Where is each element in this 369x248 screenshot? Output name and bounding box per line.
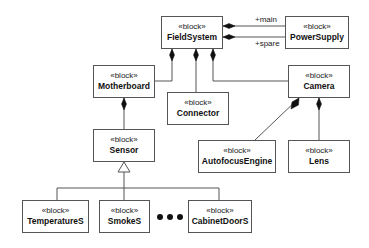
- block-autofocusengine[interactable]: «block»AutofocusEngine: [198, 140, 276, 173]
- block-name: CabinetDoorS: [192, 216, 249, 227]
- block-stereotype: «block»: [305, 71, 333, 81]
- block-name: TemperatureS: [27, 216, 84, 227]
- block-stereotype: «block»: [111, 206, 139, 216]
- block-stereotype: «block»: [305, 146, 333, 156]
- block-powersupply[interactable]: «block»PowerSupply: [285, 16, 349, 49]
- block-name: FieldSystem: [167, 32, 217, 43]
- role-main: +main: [255, 15, 277, 24]
- block-lens[interactable]: «block»Lens: [288, 140, 350, 173]
- block-cabinetdoors[interactable]: «block»CabinetDoorS: [188, 200, 252, 233]
- block-stereotype: «block»: [303, 22, 331, 32]
- block-name: AutofocusEngine: [202, 156, 272, 167]
- block-stereotype: «block»: [206, 206, 234, 216]
- block-camera[interactable]: «block»Camera: [288, 65, 350, 98]
- block-fieldsystem[interactable]: «block»FieldSystem: [161, 16, 223, 49]
- block-name: PowerSupply: [290, 32, 344, 43]
- block-temperatures[interactable]: «block»TemperatureS: [22, 200, 89, 233]
- block-stereotype: «block»: [110, 71, 138, 81]
- role-spare: +spare: [255, 39, 280, 48]
- block-stereotype: «block»: [42, 206, 70, 216]
- block-connector[interactable]: «block»Connector: [167, 92, 229, 125]
- block-stereotype: «block»: [178, 22, 206, 32]
- block-name: SmokeS: [108, 216, 142, 227]
- block-name: Camera: [303, 81, 334, 92]
- block-name: Lens: [309, 156, 329, 167]
- block-name: Connector: [177, 108, 220, 119]
- block-name: Sensor: [110, 145, 139, 156]
- block-motherboard[interactable]: «block»Motherboard: [93, 65, 155, 98]
- block-stereotype: «block»: [223, 146, 251, 156]
- ellipsis-dots: [157, 214, 183, 220]
- block-smokes[interactable]: «block»SmokeS: [99, 200, 150, 233]
- block-sensor[interactable]: «block»Sensor: [93, 129, 155, 162]
- block-stereotype: «block»: [110, 135, 138, 145]
- block-name: Motherboard: [98, 81, 150, 92]
- block-stereotype: «block»: [184, 98, 212, 108]
